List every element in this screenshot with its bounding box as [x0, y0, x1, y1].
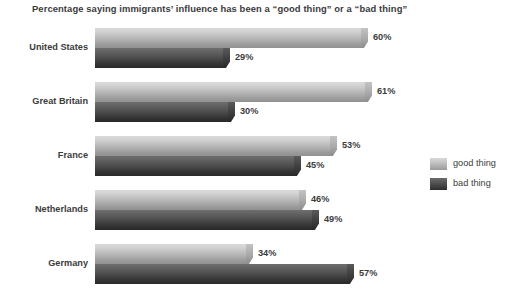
bar-end-cap: [246, 244, 253, 264]
bar-bad-thing: [95, 264, 347, 284]
bar-good-thing: [95, 82, 365, 102]
legend-swatch-good-thing: [430, 158, 447, 170]
bar-value-label: 45%: [306, 160, 324, 170]
chart-legend: good thing bad thing: [430, 157, 528, 197]
bar-bad-thing: [95, 48, 223, 68]
bar-body: [95, 156, 294, 176]
chart-title: Percentage saying immigrants’ influence …: [32, 3, 512, 14]
category-label-netherlands: Netherlands: [0, 204, 88, 214]
immigration-opinion-bar-chart: Percentage saying immigrants’ influence …: [0, 0, 531, 298]
legend-swatch-bad-thing: [430, 178, 447, 190]
bar-body: [95, 190, 299, 210]
bar-value-label: 61%: [377, 86, 395, 96]
bar-bad-thing: [95, 156, 294, 176]
bar-body: [95, 82, 365, 102]
bar-end-cap: [312, 210, 319, 230]
bar-end-cap: [294, 156, 301, 176]
bar-value-label: 49%: [324, 214, 342, 224]
bar-body: [95, 210, 312, 230]
bar-body: [95, 264, 347, 284]
bar-value-label: 34%: [258, 248, 276, 258]
bar-end-cap: [361, 28, 368, 48]
bar-good-thing: [95, 244, 246, 264]
legend-label-good-thing: good thing: [453, 158, 496, 168]
legend-label-bad-thing: bad thing: [453, 178, 491, 188]
bar-bad-thing: [95, 102, 228, 122]
bar-value-label: 46%: [311, 194, 329, 204]
bar-body: [95, 136, 330, 156]
bar-end-cap: [330, 136, 337, 156]
bar-bad-thing: [95, 210, 312, 230]
bar-end-cap: [365, 82, 372, 102]
bar-body: [95, 102, 228, 122]
legend-item-good-thing: good thing: [430, 157, 528, 174]
legend-item-bad-thing: bad thing: [430, 177, 528, 194]
bar-good-thing: [95, 136, 330, 156]
category-label-germany: Germany: [0, 258, 88, 268]
category-label-france: France: [0, 150, 88, 160]
bar-value-label: 29%: [235, 52, 253, 62]
category-label-united-states: United States: [0, 42, 88, 52]
bar-body: [95, 28, 361, 48]
bar-value-label: 30%: [240, 106, 258, 116]
bar-value-label: 57%: [359, 268, 377, 278]
bar-good-thing: [95, 28, 361, 48]
bar-end-cap: [299, 190, 306, 210]
bar-good-thing: [95, 190, 299, 210]
bar-body: [95, 244, 246, 264]
bar-value-label: 60%: [373, 32, 391, 42]
bar-value-label: 53%: [342, 140, 360, 150]
bar-end-cap: [228, 102, 235, 122]
bar-end-cap: [347, 264, 354, 284]
bar-end-cap: [223, 48, 230, 68]
category-label-great-britain: Great Britain: [0, 96, 88, 106]
bar-group: United States60%29%: [0, 26, 531, 80]
bar-group: Great Britain61%30%: [0, 80, 531, 134]
bar-body: [95, 48, 223, 68]
bar-group: Germany34%57%: [0, 242, 531, 296]
